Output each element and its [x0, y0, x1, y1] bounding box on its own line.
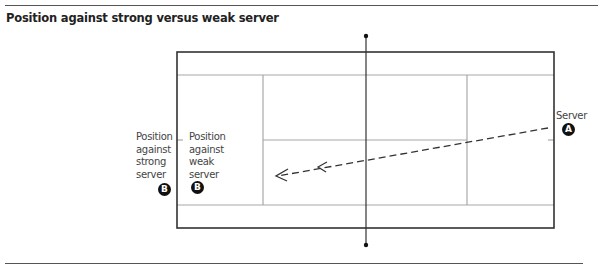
marker-a-server: A — [562, 123, 575, 136]
tennis-court-diagram — [0, 0, 611, 274]
bottom-rule — [5, 263, 583, 264]
label-strong-server-position: Position against strong server — [136, 131, 173, 181]
label-server: Server — [556, 110, 587, 123]
net-post-bottom — [364, 243, 368, 247]
serve-trajectory — [278, 128, 548, 176]
marker-b-strong: B — [158, 183, 171, 196]
label-weak-server-position: Position against weak server — [189, 131, 226, 181]
marker-b-weak: B — [191, 181, 204, 194]
net-post-top — [364, 34, 368, 38]
